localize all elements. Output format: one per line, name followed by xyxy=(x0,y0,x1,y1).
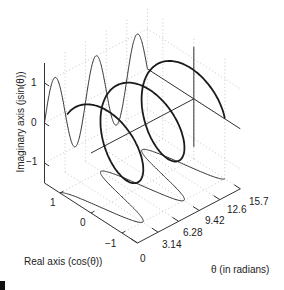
imag-tick-1: 1 xyxy=(31,77,37,88)
theta-axis-label: θ (in radians) xyxy=(211,264,269,275)
helix-curve xyxy=(67,61,225,183)
imag-axis-label: Imaginary axis (jsin(θ)) xyxy=(15,71,26,172)
imag-tick-neg1: −1 xyxy=(26,156,38,167)
theta-tick-9.42: 9.42 xyxy=(205,215,225,226)
helix-3d-plot: 1 0 −1 1 0 −1 0 3.14 6.28 9.42 12.6 15.7… xyxy=(0,0,284,290)
real-tick-neg1: −1 xyxy=(105,238,117,249)
theta-tick-0: 0 xyxy=(140,253,146,264)
corner-marker xyxy=(0,281,5,290)
real-axis-label: Real axis (cos(θ)) xyxy=(24,256,102,267)
real-tick-1: 1 xyxy=(50,197,56,208)
real-tick-0: 0 xyxy=(80,217,86,228)
imag-tick-0: 0 xyxy=(31,117,37,128)
theta-tick-12.6: 12.6 xyxy=(227,204,247,215)
sine-projection-curve xyxy=(45,34,148,147)
theta-tick-15.7: 15.7 xyxy=(249,196,269,207)
theta-tick-6.28: 6.28 xyxy=(183,227,203,238)
theta-tick-3.14: 3.14 xyxy=(162,239,182,250)
